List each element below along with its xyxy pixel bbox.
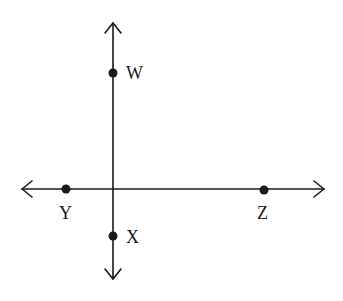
point-z (260, 186, 269, 195)
point-y (62, 185, 71, 194)
label-x: X (126, 227, 139, 247)
point-x (109, 232, 118, 241)
label-w: W (126, 63, 143, 83)
geometry-diagram: W Y Z X (0, 0, 343, 301)
label-y: Y (59, 203, 72, 223)
point-w (109, 69, 118, 78)
label-z: Z (257, 203, 268, 223)
